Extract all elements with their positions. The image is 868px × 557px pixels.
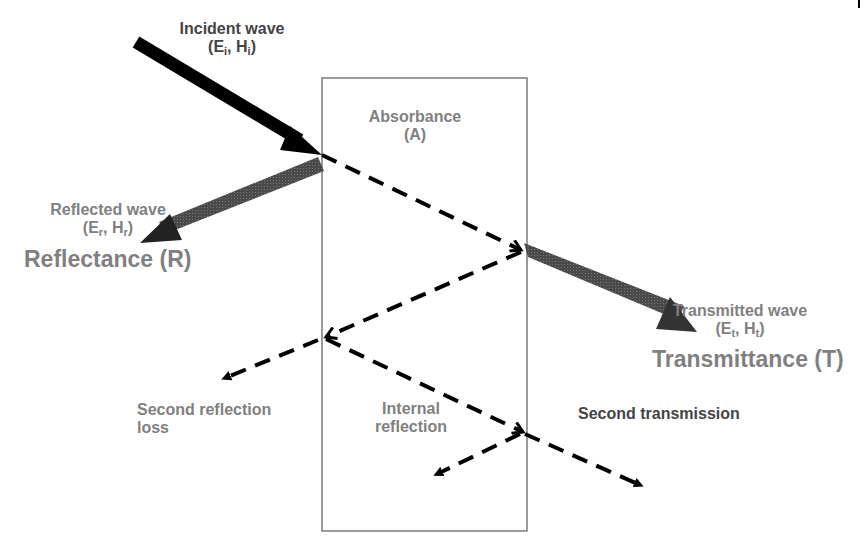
absorbance-symbol: (A) (355, 126, 475, 144)
reflected-wave-fields: (Er, Hr) (38, 219, 178, 239)
absorbance-label: Absorbance (A) (355, 108, 475, 145)
dashed-path-2 (326, 252, 521, 337)
transmitted-wave-fields: (Et, Ht) (660, 320, 820, 340)
internal-reflection-label: Internal reflection (366, 400, 456, 437)
absorbance-title: Absorbance (355, 108, 475, 126)
internal-reflection-arrow (437, 434, 520, 474)
second-transmission-arrow (525, 434, 640, 485)
second-reflection-line1: Second reflection (137, 401, 271, 419)
transmitted-wave-label: Transmitted wave (Et, Ht) (660, 302, 820, 340)
transmittance-label: Transmittance (T) (652, 346, 844, 372)
transmitted-wave-title: Transmitted wave (660, 302, 820, 320)
internal-reflection-line1: Internal (366, 400, 456, 418)
reflectance-label: Reflectance (R) (24, 246, 191, 272)
second-transmission-label: Second transmission (578, 405, 740, 423)
diagram-canvas (0, 0, 868, 557)
material-slab (322, 78, 527, 531)
second-reflection-loss-arrow (225, 340, 318, 378)
incident-wave-label: Incident wave (Ei, Hi) (172, 20, 292, 58)
incident-wave-fields: (Ei, Hi) (172, 38, 292, 58)
second-reflection-loss-label: Second reflection loss (137, 401, 271, 438)
internal-reflection-line2: reflection (366, 418, 456, 436)
dashed-path-1 (322, 155, 521, 250)
incident-wave-title: Incident wave (172, 20, 292, 38)
incident-wave-arrow (136, 42, 322, 155)
reflected-wave-title: Reflected wave (38, 201, 178, 219)
reflected-wave-label: Reflected wave (Er, Hr) (38, 201, 178, 239)
second-reflection-line2: loss (137, 419, 271, 437)
